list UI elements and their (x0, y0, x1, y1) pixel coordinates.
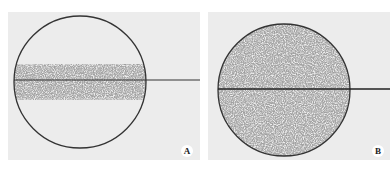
panel-b-drawing (216, 22, 390, 158)
panel-label-a: A (181, 145, 193, 157)
panel-label-b: B (372, 145, 384, 157)
diagram-canvas (0, 0, 390, 169)
panel-a-drawing (10, 16, 200, 148)
